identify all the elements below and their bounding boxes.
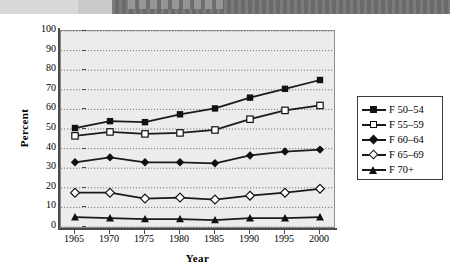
x-tick-mark	[109, 230, 110, 234]
x-tick-mark	[74, 230, 75, 234]
x-tick-label: 1980	[159, 233, 199, 244]
legend-marker-filled-square-icon	[361, 103, 387, 117]
legend-item-2[interactable]: F 60–64	[361, 132, 442, 147]
legend-label: F 55–59	[387, 119, 424, 130]
legend-marker-glyph	[370, 106, 377, 113]
legend-item-1[interactable]: F 55–59	[361, 117, 442, 132]
legend-marker-glyph	[369, 134, 379, 144]
x-tick-mark	[319, 230, 320, 234]
legend-marker-filled-diamond-icon	[361, 133, 387, 147]
legend-label: F 70+	[387, 164, 414, 175]
x-tick-mark	[284, 230, 285, 234]
legend-item-0[interactable]: F 50–54	[361, 102, 442, 117]
chart-legend: F 50–54F 55–59F 60–64F 65–69F 70+	[357, 96, 443, 180]
x-tick-label: 1990	[229, 233, 269, 244]
x-axis-title: Year	[60, 252, 335, 264]
x-tick-label: 1975	[124, 233, 164, 244]
banner-title-text	[128, 0, 223, 9]
x-tick-label: 1970	[89, 233, 129, 244]
legend-marker-open-square-icon	[361, 118, 387, 132]
legend-label: F 50–54	[387, 104, 424, 115]
chart-figure: 0102030405060708090100 19651970197519801…	[0, 14, 450, 280]
legend-marker-filled-triangle-icon	[361, 163, 387, 177]
x-tick-label: 2000	[299, 233, 339, 244]
x-tick-label: 1985	[194, 233, 234, 244]
legend-label: F 60–64	[387, 134, 424, 145]
x-tick-label: 1995	[264, 233, 304, 244]
x-tick-mark	[214, 230, 215, 234]
top-banner	[0, 0, 450, 14]
legend-marker-glyph	[369, 166, 377, 174]
x-tick-mark	[249, 230, 250, 234]
legend-item-4[interactable]: F 70+	[361, 162, 442, 177]
legend-label: F 65–69	[387, 149, 424, 160]
x-tick-mark	[144, 230, 145, 234]
y-axis-title: Percent	[18, 98, 30, 158]
legend-marker-glyph	[370, 121, 377, 128]
x-tick-mark	[179, 230, 180, 234]
legend-marker-open-diamond-icon	[361, 148, 387, 162]
legend-item-3[interactable]: F 65–69	[361, 147, 442, 162]
legend-marker-glyph	[369, 149, 379, 159]
x-tick-label: 1965	[54, 233, 94, 244]
